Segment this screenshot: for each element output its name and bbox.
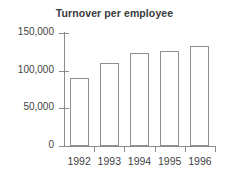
bar-1995	[160, 51, 179, 146]
y-axis-tick-label: 150,000	[0, 26, 54, 37]
bar-1994	[130, 53, 149, 146]
y-axis-tick	[59, 71, 69, 72]
bar-1996	[190, 46, 209, 146]
chart-figure: Turnover per employee 050,000100,000150,…	[0, 0, 229, 180]
x-axis-tick	[185, 146, 186, 152]
chart-title: Turnover per employee	[0, 7, 229, 19]
y-axis-tick	[59, 108, 69, 109]
x-axis-label-1996: 1996	[180, 155, 220, 167]
x-axis-tick	[215, 146, 216, 152]
y-axis-tick	[59, 33, 69, 34]
x-axis-tick	[94, 146, 95, 152]
x-axis-line	[64, 146, 216, 147]
y-axis-tick-label: 50,000	[0, 101, 54, 112]
y-axis-tick-label: 100,000	[0, 64, 54, 75]
y-axis-line	[64, 32, 65, 147]
y-axis-tick	[59, 146, 69, 147]
x-axis-tick	[124, 146, 125, 152]
bar-1993	[100, 63, 119, 146]
x-axis-tick	[155, 146, 156, 152]
y-axis-tick-label: 0	[0, 139, 54, 150]
bar-1992	[70, 78, 89, 146]
